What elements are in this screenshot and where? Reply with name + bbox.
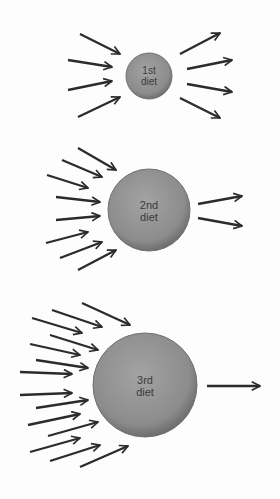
stage1-label-line1: 1st <box>141 65 157 76</box>
stage1-arrows-in <box>68 34 120 117</box>
stage1-label-line2: diet <box>141 76 157 87</box>
diet-diagram: 1st diet 2nd diet 3rd diet <box>0 0 280 499</box>
stage3-label: 3rd diet <box>136 374 154 398</box>
stage2-arrows-out <box>198 196 242 226</box>
stage1-label: 1st diet <box>141 65 157 87</box>
stage2-label-line1: 2nd <box>140 199 158 211</box>
stage2-label-line2: diet <box>140 211 158 223</box>
stage3-label-line1: 3rd <box>136 374 154 386</box>
stage1-arrows-out <box>180 33 232 118</box>
stage2-label: 2nd diet <box>140 199 158 223</box>
stage3-label-line2: diet <box>136 386 154 398</box>
stage2-arrows-in <box>46 148 116 270</box>
